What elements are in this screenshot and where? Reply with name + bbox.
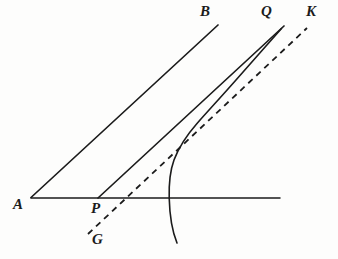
ray-pq-line — [98, 26, 284, 198]
dashed-line-gk-line — [88, 28, 307, 234]
ray-ab-line — [31, 25, 218, 198]
asymptotic-curve-path — [169, 29, 281, 244]
vertex-label-a: A — [13, 197, 23, 212]
figure-canvas — [0, 0, 338, 259]
vertex-label-b: B — [200, 4, 210, 19]
vertex-label-k: K — [306, 4, 316, 19]
vertex-label-p: P — [91, 201, 100, 216]
geometric-figure: A B P Q K G — [0, 0, 338, 259]
vertex-label-q: Q — [261, 4, 272, 19]
vertex-label-g: G — [92, 232, 103, 247]
